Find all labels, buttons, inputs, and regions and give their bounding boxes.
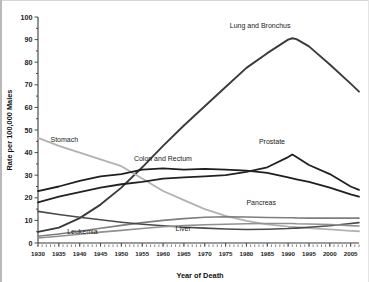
y-tick-label: 50 xyxy=(25,126,33,135)
y-tick-label: 70 xyxy=(25,80,33,89)
x-tick-label: 1990 xyxy=(281,250,295,257)
series-label-liver: Liver xyxy=(176,225,192,232)
y-tick-label: 0 xyxy=(29,239,33,248)
chart-canvas: 0102030405060708090100 19301935194019451… xyxy=(0,0,369,282)
y-tick-label: 40 xyxy=(25,148,33,157)
y-tick-label: 90 xyxy=(25,35,33,44)
x-tick-label: 1950 xyxy=(114,250,128,257)
x-tick-label: 1965 xyxy=(177,250,191,257)
series-label-leukemia: Leukemia xyxy=(67,228,97,235)
y-tick-label: 80 xyxy=(25,58,33,67)
x-tick-label: 1985 xyxy=(260,250,274,257)
x-axis-title: Year of Death xyxy=(176,271,224,280)
series-line-lung-and-bronchus xyxy=(38,38,359,232)
y-tick-label: 60 xyxy=(25,103,33,112)
line-chart: 0102030405060708090100 19301935194019451… xyxy=(0,0,369,282)
x-tick-label: 1955 xyxy=(135,250,149,257)
x-tick-label: 2005 xyxy=(344,250,358,257)
x-tick-label: 1960 xyxy=(156,250,170,257)
series-label-prostate: Prostate xyxy=(259,138,285,145)
series-label-lung-and-bronchus: Lung and Bronchus xyxy=(230,22,291,30)
x-tick-label: 1975 xyxy=(219,250,233,257)
series-label-stomach: Stomach xyxy=(51,136,79,143)
x-tick-label: 1995 xyxy=(302,250,316,257)
y-axis: 0102030405060708090100 xyxy=(21,13,39,248)
x-tick-label: 1930 xyxy=(31,250,45,257)
y-tick-label: 20 xyxy=(25,193,33,202)
x-tick-label: 2000 xyxy=(323,250,337,257)
series-line-colon-and-rectum xyxy=(38,168,359,196)
series-label-pancreas: Pancreas xyxy=(246,199,276,206)
chart-figure: 0102030405060708090100 19301935194019451… xyxy=(0,0,369,282)
y-axis-title: Rate per 100,000 Males xyxy=(5,90,14,171)
y-tick-label: 100 xyxy=(21,13,33,22)
series-line-prostate xyxy=(38,154,359,202)
x-axis: 1930193519401945195019551960196519701975… xyxy=(31,243,359,257)
series-lines xyxy=(38,38,359,238)
x-tick-label: 1940 xyxy=(73,250,87,257)
x-tick-label: 1970 xyxy=(198,250,212,257)
series-labels: Lung and BronchusStomachColon and Rectum… xyxy=(51,22,291,234)
y-tick-label: 30 xyxy=(25,171,33,180)
x-tick-label: 1945 xyxy=(94,250,108,257)
y-tick-label: 10 xyxy=(25,216,33,225)
x-tick-label: 1935 xyxy=(52,250,66,257)
series-label-colon-and-rectum: Colon and Rectum xyxy=(134,155,192,162)
x-tick-label: 1980 xyxy=(240,250,254,257)
